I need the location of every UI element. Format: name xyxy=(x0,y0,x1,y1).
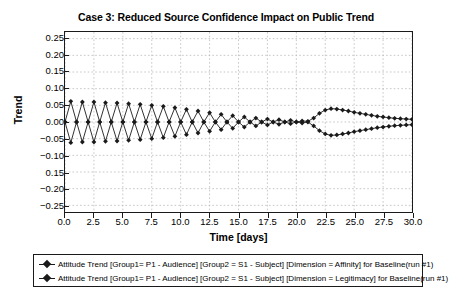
x-tick-label: 30.0 xyxy=(393,217,433,227)
data-point-marker xyxy=(161,104,166,109)
data-point-marker xyxy=(346,109,351,114)
data-point-marker xyxy=(352,110,357,115)
legend-item-affinity[interactable]: Attitude Trend [Group1= P1 - Audience] [… xyxy=(39,257,422,271)
data-point-marker xyxy=(68,99,73,104)
y-tick-mark xyxy=(64,38,69,39)
data-point-marker xyxy=(132,120,137,125)
data-point-marker xyxy=(404,123,409,128)
data-point-marker xyxy=(381,125,386,130)
data-point-marker xyxy=(80,140,85,145)
data-point-marker xyxy=(68,140,73,145)
data-point-marker xyxy=(86,120,91,125)
data-point-marker xyxy=(190,120,195,125)
y-tick-label: 0.10 xyxy=(20,83,64,93)
data-point-marker xyxy=(126,138,131,143)
plot-area xyxy=(64,31,413,213)
y-tick-label: 0.25 xyxy=(20,33,64,43)
y-tick-mark xyxy=(64,71,69,72)
data-point-marker xyxy=(265,123,270,128)
legend: Attitude Trend [Group1= P1 - Audience] [… xyxy=(33,254,423,287)
data-point-marker xyxy=(375,125,380,130)
data-point-marker xyxy=(404,117,409,122)
y-tick-mark xyxy=(64,173,69,174)
data-point-marker xyxy=(155,120,160,125)
data-point-marker xyxy=(277,117,282,122)
data-point-marker xyxy=(92,100,97,105)
data-point-marker xyxy=(196,131,201,136)
x-tick-mark xyxy=(209,213,210,218)
data-point-marker xyxy=(115,139,120,144)
x-tick-mark xyxy=(326,213,327,218)
y-tick-label: −0.20 xyxy=(20,184,64,194)
y-tick-label: 0.15 xyxy=(20,168,64,178)
data-point-marker xyxy=(369,126,374,131)
x-tick-mark xyxy=(180,213,181,218)
data-point-marker xyxy=(74,120,79,125)
data-point-marker xyxy=(184,107,189,112)
data-point-marker xyxy=(398,116,403,121)
data-point-marker xyxy=(294,120,299,125)
y-tick-label: −0.25 xyxy=(20,201,64,211)
data-point-marker xyxy=(120,120,125,125)
y-tick-label: 0.20 xyxy=(20,50,64,60)
data-point-marker xyxy=(323,132,328,137)
data-point-marker xyxy=(288,118,293,123)
data-point-marker xyxy=(149,136,154,141)
x-tick-mark xyxy=(297,213,298,218)
data-point-marker xyxy=(138,102,143,107)
data-point-marker xyxy=(340,132,345,137)
x-tick-mark xyxy=(64,213,65,218)
data-point-marker xyxy=(334,107,339,112)
data-point-marker xyxy=(392,123,397,128)
y-tick-label: 0.00 xyxy=(20,117,64,127)
data-point-marker xyxy=(184,132,189,137)
data-point-marker xyxy=(329,133,334,138)
data-point-marker xyxy=(144,120,149,125)
data-point-marker xyxy=(398,123,403,128)
data-point-marker xyxy=(207,129,212,134)
y-tick-label: −0.10 xyxy=(20,151,64,161)
x-axis-tick-labels: 0.02.55.07.510.012.515.017.520.022.525.0… xyxy=(0,217,452,231)
data-point-marker xyxy=(149,103,154,108)
data-point-marker xyxy=(392,116,397,121)
data-point-marker xyxy=(363,112,368,117)
legend-item-legitimacy[interactable]: Attitude Trend [Group1= P1 - Audience] [… xyxy=(39,271,422,285)
x-tick-mark xyxy=(268,213,269,218)
data-point-marker xyxy=(265,117,270,122)
data-series-layer xyxy=(65,32,412,212)
data-point-marker xyxy=(178,120,183,125)
data-point-marker xyxy=(138,137,143,142)
data-point-marker xyxy=(126,101,131,106)
x-axis-title: Time [days] xyxy=(64,231,413,243)
data-point-marker xyxy=(323,108,328,113)
data-point-marker xyxy=(97,120,102,125)
data-point-marker xyxy=(282,120,287,125)
legend-label-affinity: Attitude Trend [Group1= P1 - Audience] [… xyxy=(58,260,433,269)
chart-title: Case 3: Reduced Source Confidence Impact… xyxy=(0,11,452,23)
data-point-marker xyxy=(352,129,357,134)
y-tick-mark xyxy=(64,88,69,89)
data-point-marker xyxy=(329,106,334,111)
y-tick-label: 0.05 xyxy=(20,100,64,110)
data-point-marker xyxy=(161,135,166,140)
data-point-marker xyxy=(369,113,374,118)
y-tick-mark xyxy=(64,156,69,157)
data-point-marker xyxy=(103,139,108,144)
data-point-marker xyxy=(358,128,363,133)
data-point-marker xyxy=(375,114,380,119)
data-point-marker xyxy=(201,120,206,125)
legend-label-legitimacy: Attitude Trend [Group1= P1 - Audience] [… xyxy=(58,274,448,283)
data-point-marker xyxy=(381,115,386,120)
chart-container: Case 3: Reduced Source Confidence Impact… xyxy=(0,0,452,298)
data-point-marker xyxy=(346,131,351,136)
y-tick-mark xyxy=(64,139,69,140)
x-tick-mark xyxy=(413,213,414,218)
data-point-marker xyxy=(92,140,97,145)
data-point-marker xyxy=(167,120,172,125)
data-point-marker xyxy=(386,124,391,129)
data-point-marker xyxy=(109,120,114,125)
data-point-marker xyxy=(207,110,212,115)
data-point-marker xyxy=(172,105,177,110)
data-point-marker xyxy=(80,100,85,105)
data-point-marker xyxy=(358,111,363,116)
